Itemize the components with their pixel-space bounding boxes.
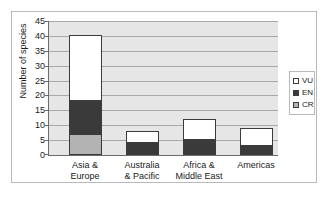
legend-swatch-en-icon: [293, 90, 299, 96]
y-tick-mark: [45, 66, 48, 67]
y-tick-mark: [45, 140, 48, 141]
y-tick-label: 20: [35, 91, 45, 100]
chart-frame: 45 40 35 30 25 20 15 10 5 0 Number of sp…: [11, 11, 317, 183]
y-tick-mark: [45, 154, 48, 155]
y-axis-line: [48, 21, 49, 156]
legend-item-en[interactable]: EN: [293, 87, 312, 99]
y-tick-mark: [45, 125, 48, 126]
x-tick-label-line: Middle East: [166, 171, 232, 182]
y-tick-label: 15: [35, 106, 45, 115]
y-tick-label: 35: [35, 47, 45, 56]
bar-segment-en[interactable]: [126, 143, 159, 155]
bar-segment-cr[interactable]: [69, 134, 102, 155]
bar-segment-en[interactable]: [183, 140, 216, 155]
x-tick-label-americas: Americas: [223, 160, 289, 171]
y-tick-label: 40: [35, 32, 45, 41]
legend-swatch-vu-icon: [293, 78, 299, 84]
bar-segment-vu[interactable]: [69, 35, 102, 101]
y-tick-mark: [45, 110, 48, 111]
y-tick-mark: [45, 81, 48, 82]
x-axis-tick-labels: Asia & Europe Australia & Pacific Africa…: [48, 160, 278, 186]
y-tick-mark: [45, 51, 48, 52]
y-tick-label: 0: [40, 151, 45, 160]
y-tick-label: 45: [35, 17, 45, 26]
legend-label-vu: VU: [302, 77, 313, 85]
y-axis-title: Number of species: [18, 9, 28, 113]
y-tick-mark: [45, 95, 48, 96]
legend-label-en: EN: [302, 89, 313, 97]
x-tick-label-line: Americas: [223, 160, 289, 171]
y-tick-label: 10: [35, 121, 45, 130]
legend-label-cr: CR: [302, 101, 314, 109]
legend-item-vu[interactable]: VU: [293, 75, 312, 87]
y-tick-label: 30: [35, 62, 45, 71]
gridline: [48, 21, 278, 22]
bar-segment-en[interactable]: [240, 146, 273, 155]
legend-item-cr[interactable]: CR: [293, 99, 312, 111]
y-tick-label: 25: [35, 77, 45, 86]
bar-segment-vu[interactable]: [183, 119, 216, 140]
y-axis-tick-labels: 45 40 35 30 25 20 15 10 5 0: [26, 21, 45, 156]
x-axis-line: [48, 155, 278, 156]
bar-segment-en[interactable]: [69, 101, 102, 134]
y-tick-mark: [45, 36, 48, 37]
legend-swatch-cr-icon: [293, 102, 299, 108]
bar-segment-vu[interactable]: [240, 128, 273, 146]
plot-area: [48, 21, 278, 156]
y-tick-mark: [45, 21, 48, 22]
chart-legend: VU EN CR: [289, 71, 315, 115]
bar-segment-vu[interactable]: [126, 131, 159, 143]
